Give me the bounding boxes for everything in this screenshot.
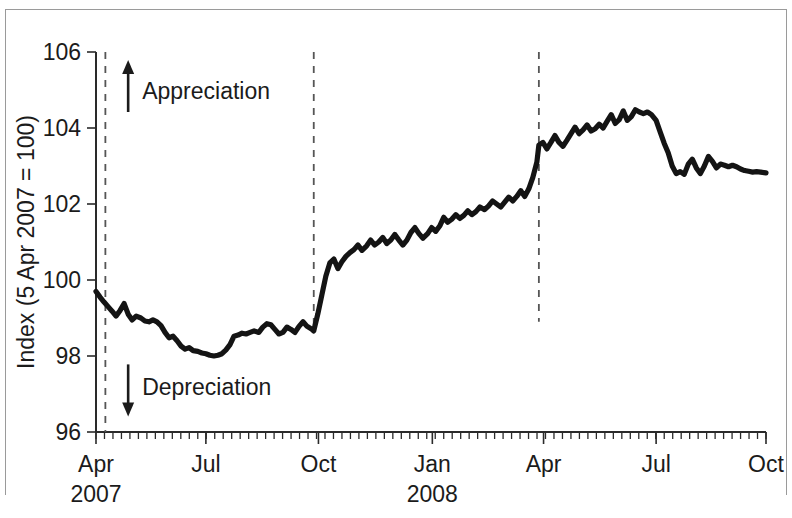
chart-canvas: Index (5 Apr 2007 = 100) 969810010210410… bbox=[0, 0, 792, 518]
x-axis-ticks: AprJulOctJanAprJulOct20072008 bbox=[70, 432, 784, 507]
annotations-group: AppreciationDepreciation bbox=[122, 60, 271, 416]
depreciation-label: Depreciation bbox=[142, 374, 271, 400]
depreciation-arrowhead-icon bbox=[122, 402, 134, 416]
y-tick-label: 100 bbox=[43, 267, 81, 293]
x-axis bbox=[96, 432, 766, 439]
appreciation-arrowhead-icon bbox=[122, 60, 134, 74]
x-tick-label: Jul bbox=[191, 451, 220, 477]
y-axis-ticks: 9698100102104106 bbox=[43, 39, 96, 445]
y-tick-label: 98 bbox=[55, 343, 81, 369]
y-tick-label: 106 bbox=[43, 39, 81, 65]
figure-panel: Index (5 Apr 2007 = 100) 969810010210410… bbox=[0, 0, 792, 518]
y-tick-label: 104 bbox=[43, 115, 82, 141]
x-tick-label: Apr bbox=[526, 451, 562, 477]
x-tick-label: Apr bbox=[78, 451, 114, 477]
y-tick-label: 102 bbox=[43, 191, 81, 217]
series-line bbox=[96, 110, 766, 356]
x-tick-label: Jan bbox=[414, 451, 451, 477]
y-tick-label: 96 bbox=[55, 419, 81, 445]
x-tick-label: Oct bbox=[748, 451, 784, 477]
series-group bbox=[96, 110, 766, 356]
x-year-label: 2008 bbox=[407, 481, 458, 507]
y-axis-title-text: Index (5 Apr 2007 = 100) bbox=[13, 115, 39, 369]
x-year-label: 2007 bbox=[70, 481, 121, 507]
x-tick-label: Jul bbox=[641, 451, 670, 477]
x-tick-label: Oct bbox=[301, 451, 337, 477]
y-axis-title: Index (5 Apr 2007 = 100) bbox=[13, 115, 39, 369]
appreciation-label: Appreciation bbox=[142, 78, 270, 104]
